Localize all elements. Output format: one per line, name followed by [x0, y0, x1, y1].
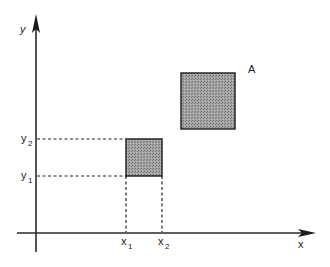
small-rectangle	[126, 139, 162, 176]
y-axis	[32, 14, 40, 252]
x1-tick-label: x 1	[121, 235, 133, 251]
y-axis-label: y	[19, 23, 27, 35]
y2-tick-label: y 2	[21, 132, 33, 148]
y1-tick-label: y 1	[21, 169, 33, 185]
svg-text:x: x	[158, 235, 164, 247]
rectangle-A-label: A	[248, 63, 256, 75]
x2-tick-label: x 2	[158, 235, 170, 251]
svg-text:y: y	[21, 132, 27, 144]
svg-text:y: y	[21, 169, 27, 181]
x-axis-label: x	[298, 238, 304, 250]
svg-text:2: 2	[28, 139, 33, 148]
x-axis	[17, 229, 316, 237]
svg-text:x: x	[121, 235, 127, 247]
svg-text:1: 1	[128, 242, 133, 251]
svg-text:2: 2	[165, 242, 170, 251]
diagram-canvas: A y x y 2 y 1 x 1 x 2	[0, 0, 330, 267]
svg-text:1: 1	[28, 176, 33, 185]
rectangle-A	[181, 73, 235, 129]
